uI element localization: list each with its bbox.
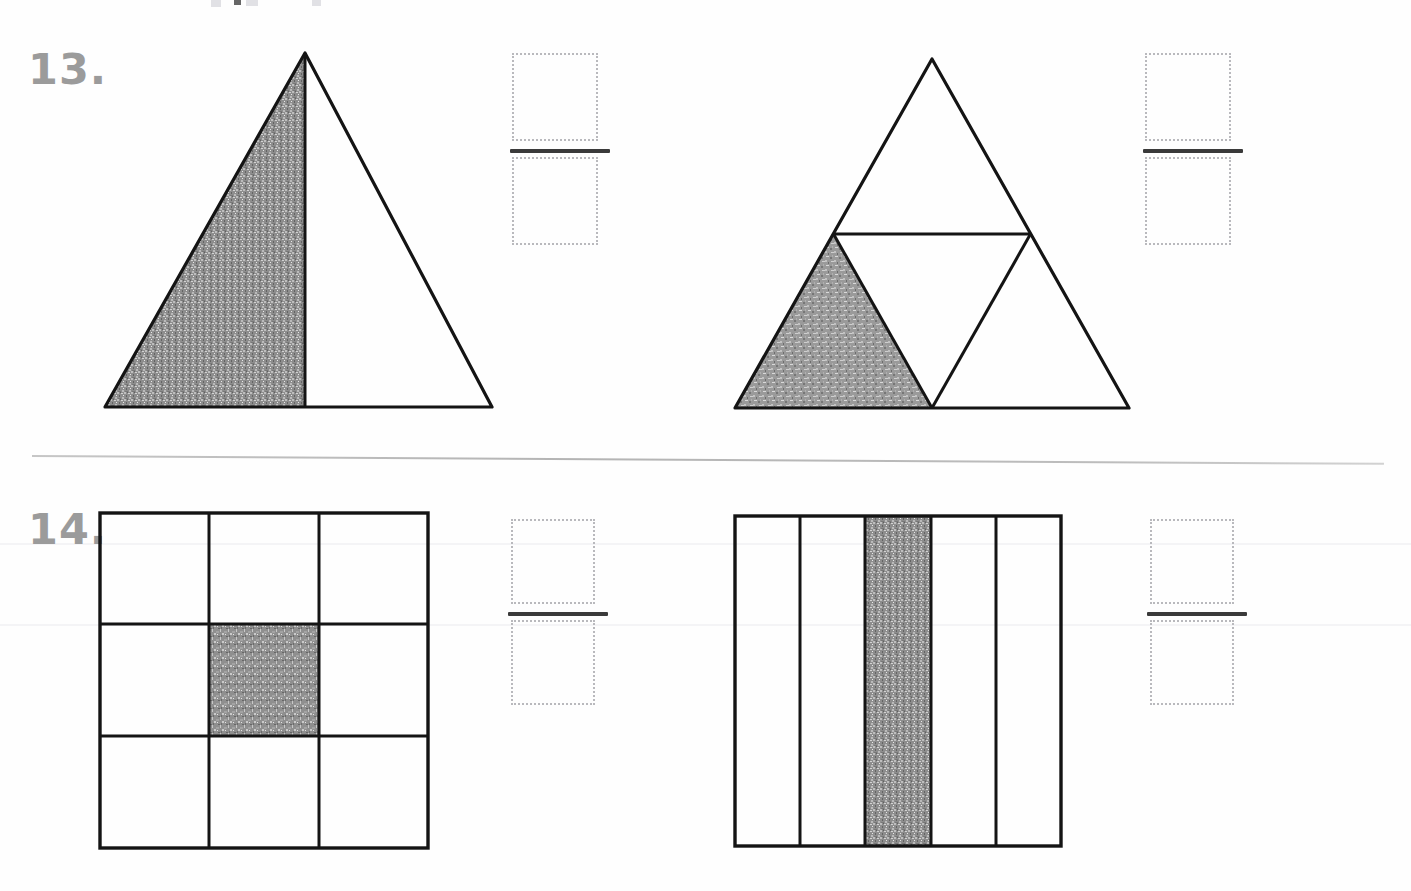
page-trim-mark — [312, 0, 321, 6]
shaded-center-cell — [209, 624, 319, 736]
page-trim-mark — [246, 0, 258, 6]
answer-14-right-denominator-box[interactable] — [1150, 620, 1234, 705]
figure-13-right-triangle-quarters — [726, 48, 1146, 423]
answer-14-left-numerator-box[interactable] — [511, 519, 595, 604]
answer-13-left-numerator-box[interactable] — [512, 53, 598, 141]
problem-separator-rule — [32, 455, 1384, 465]
shaded-middle-strip — [865, 516, 931, 846]
answer-13-right-fraction-bar — [1143, 149, 1243, 153]
shaded-bottom-left-triangle — [735, 234, 932, 408]
figure-13-left-triangle-halves — [96, 42, 516, 422]
page-trim-mark — [234, 0, 241, 5]
answer-14-right-fraction-bar — [1147, 612, 1247, 616]
figure-13-left-svg — [96, 42, 516, 422]
figure-14-right-rectangle-strips — [726, 508, 1072, 860]
answer-14-right-fraction — [1147, 519, 1247, 709]
answer-14-left-denominator-box[interactable] — [511, 620, 595, 705]
answer-14-left-fraction — [508, 519, 608, 709]
figure-14-right-svg — [726, 508, 1072, 860]
answer-14-right-numerator-box[interactable] — [1150, 519, 1234, 604]
figure-14-left-svg — [92, 505, 440, 861]
answer-13-left-fraction-bar — [510, 149, 610, 153]
worksheet-page: 13. — [0, 0, 1411, 891]
page-trim-mark — [211, 0, 221, 7]
midsegment-right — [932, 234, 1031, 408]
figure-14-left-square-grid — [92, 505, 440, 861]
figure-13-right-svg — [726, 48, 1146, 423]
answer-14-left-fraction-bar — [508, 612, 608, 616]
answer-13-left-denominator-box[interactable] — [512, 157, 598, 245]
answer-13-right-denominator-box[interactable] — [1145, 157, 1231, 245]
answer-13-right-numerator-box[interactable] — [1145, 53, 1231, 141]
answer-13-right-fraction — [1143, 53, 1243, 243]
answer-13-left-fraction — [510, 53, 610, 243]
